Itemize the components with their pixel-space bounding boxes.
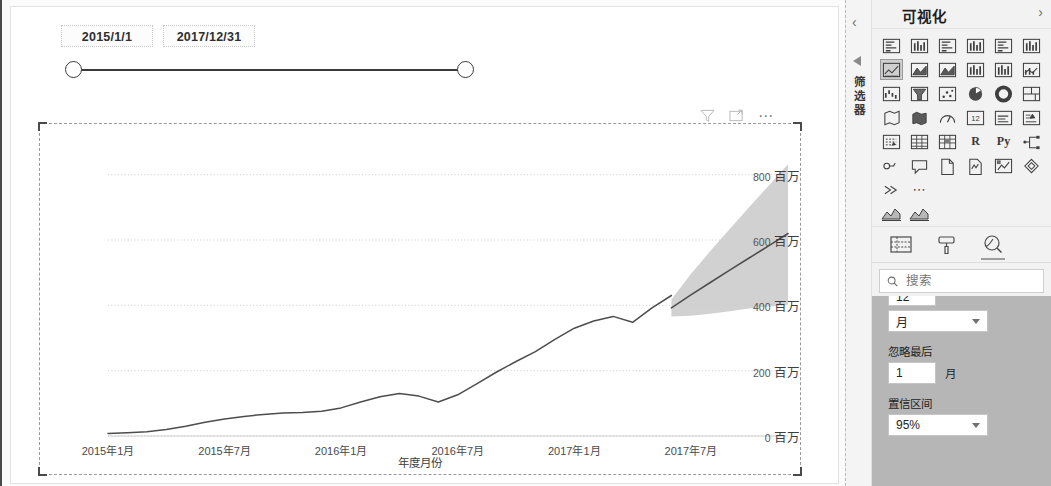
slicer-date-fields: 2015/1/1 2017/12/31 bbox=[61, 25, 255, 47]
decomposition-tree-icon[interactable] bbox=[1020, 131, 1043, 152]
forecast-unit-value: 月 bbox=[896, 313, 908, 330]
svg-text:12: 12 bbox=[971, 114, 979, 123]
r-script-visual-icon[interactable]: R bbox=[964, 131, 987, 152]
y-axis-tick-label: 400 百万 bbox=[738, 296, 800, 315]
y-tick-value: 400 bbox=[753, 301, 771, 313]
confidence-interval-label: 置信区间 bbox=[888, 395, 1035, 411]
clustered-column-chart-icon[interactable] bbox=[964, 35, 987, 56]
ignore-last-row: 1 月 bbox=[888, 362, 1035, 384]
ignore-last-group: 忽略最后 1 月 bbox=[888, 343, 1035, 384]
report-canvas: 2015/1/1 2017/12/31 ⋯ bbox=[0, 0, 845, 486]
more-options-icon[interactable]: ⋯ bbox=[908, 179, 931, 200]
chart-svg bbox=[40, 124, 802, 476]
python-visual-icon[interactable]: Py bbox=[992, 131, 1015, 152]
stacked-bar-chart-icon[interactable] bbox=[880, 35, 903, 56]
matrix-icon[interactable] bbox=[936, 131, 959, 152]
tab-fields[interactable] bbox=[888, 234, 914, 258]
line-and-stacked-column-chart-icon[interactable] bbox=[964, 59, 987, 80]
ignore-last-input[interactable]: 1 bbox=[888, 362, 936, 384]
more-options-icon[interactable]: ⋯ bbox=[758, 112, 775, 120]
line-and-clustered-column-chart-icon[interactable] bbox=[992, 59, 1015, 80]
chevron-down-icon bbox=[972, 319, 980, 324]
more-options-icon-label: ⋯ bbox=[913, 187, 927, 193]
scatter-chart-icon[interactable] bbox=[936, 83, 959, 104]
slicer-track[interactable] bbox=[73, 69, 465, 71]
waterfall-chart-icon[interactable] bbox=[880, 83, 903, 104]
filters-expand-arrow-icon[interactable] bbox=[853, 56, 861, 66]
forecast-settings-panel: 12 月 忽略最后 1 月 置信区间 bbox=[872, 296, 1051, 486]
ignore-last-label: 忽略最后 bbox=[888, 343, 1035, 359]
gauge-icon[interactable] bbox=[936, 107, 959, 128]
hundred-percent-stacked-bar-chart-icon[interactable] bbox=[992, 35, 1015, 56]
report-page: 2015/1/1 2017/12/31 ⋯ bbox=[10, 6, 839, 484]
paginated-report-icon[interactable] bbox=[936, 155, 959, 176]
forecast-unit-dropdown[interactable]: 月 bbox=[888, 310, 988, 332]
paint-roller-icon bbox=[934, 234, 960, 256]
hundred-percent-stacked-column-chart-icon[interactable] bbox=[1020, 35, 1043, 56]
azure-map-mini-icon[interactable] bbox=[880, 204, 902, 222]
custom-visuals-row[interactable] bbox=[872, 202, 1051, 227]
confidence-interval-group: 置信区间 95% bbox=[888, 395, 1035, 436]
table-icon[interactable] bbox=[908, 131, 931, 152]
line-chart-mini-icon[interactable] bbox=[908, 204, 930, 222]
visualizations-expand-icon[interactable]: › bbox=[1038, 4, 1043, 20]
slicer-end-date-field[interactable]: 2017/12/31 bbox=[163, 25, 255, 47]
stacked-area-chart-icon[interactable] bbox=[936, 59, 959, 80]
confidence-interval-dropdown[interactable]: 95% bbox=[888, 414, 988, 436]
analytics-magnifier-icon bbox=[980, 234, 1006, 256]
focus-mode-icon[interactable] bbox=[729, 109, 744, 123]
filled-map-icon[interactable] bbox=[908, 107, 931, 128]
right-pane: ‹ 筛选器 可视化 › 12RPy⋯ bbox=[845, 0, 1051, 486]
chevron-down-icon bbox=[972, 423, 980, 428]
slicer-handle-end[interactable] bbox=[457, 61, 474, 78]
treemap-icon[interactable] bbox=[1020, 83, 1043, 104]
smart-narrative-icon[interactable] bbox=[964, 155, 987, 176]
donut-chart-icon[interactable] bbox=[992, 83, 1015, 104]
pane-tab-strip[interactable] bbox=[872, 227, 1051, 263]
slicer-start-date-field[interactable]: 2015/1/1 bbox=[61, 25, 153, 47]
kpi-icon[interactable]: 12 bbox=[964, 107, 987, 128]
y-tick-unit: 百万 bbox=[771, 169, 800, 183]
area-chart-icon[interactable] bbox=[908, 59, 931, 80]
clustered-bar-chart-icon[interactable] bbox=[936, 35, 959, 56]
line-chart-icon[interactable] bbox=[880, 59, 903, 80]
visualizations-pane: 可视化 › 12RPy⋯ bbox=[872, 0, 1051, 486]
y-tick-value: 200 bbox=[753, 366, 771, 378]
filters-pane-label: 筛选器 bbox=[852, 76, 867, 118]
pie-chart-icon[interactable] bbox=[964, 83, 987, 104]
y-tick-unit: 百万 bbox=[771, 365, 800, 379]
filter-icon[interactable] bbox=[700, 109, 715, 123]
search-input[interactable] bbox=[904, 273, 1036, 289]
python-visual-icon-label: Py bbox=[997, 134, 1010, 149]
forecast-length-field[interactable]: 12 bbox=[888, 296, 936, 306]
y-axis-tick-label: 800 百万 bbox=[738, 165, 800, 184]
search-box[interactable] bbox=[879, 269, 1044, 293]
fields-table-icon bbox=[888, 234, 914, 256]
chart-plot-area bbox=[40, 124, 802, 476]
filters-collapse-icon[interactable]: ‹ bbox=[852, 14, 857, 30]
card-icon[interactable] bbox=[992, 107, 1015, 128]
line-chart-visual[interactable]: ⋯ 0 百万200 百万400 百万600 百万800 百万 2015年1月20… bbox=[39, 123, 801, 475]
tab-selected-underline bbox=[981, 258, 1005, 260]
map-icon[interactable] bbox=[880, 107, 903, 128]
key-influencers-icon[interactable] bbox=[880, 155, 903, 176]
get-more-visuals-icon[interactable] bbox=[880, 179, 903, 200]
stacked-column-chart-icon[interactable] bbox=[908, 35, 931, 56]
tab-format[interactable] bbox=[934, 234, 960, 258]
slicer-icon[interactable] bbox=[880, 131, 903, 152]
power-apps-icon[interactable] bbox=[992, 155, 1015, 176]
date-range-slicer[interactable]: 2015/1/1 2017/12/31 bbox=[51, 25, 491, 95]
visual-header-toolbar: ⋯ bbox=[700, 108, 800, 124]
filters-rail[interactable]: ‹ 筛选器 bbox=[846, 0, 872, 486]
slicer-handle-start[interactable] bbox=[65, 61, 82, 78]
power-automate-icon[interactable] bbox=[1020, 155, 1043, 176]
q-and-a-icon[interactable] bbox=[908, 155, 931, 176]
ribbon-chart-icon[interactable] bbox=[1020, 59, 1043, 80]
visualization-type-gallery[interactable]: 12RPy⋯ bbox=[872, 29, 1051, 202]
visualizations-pane-header: 可视化 › bbox=[872, 0, 1051, 29]
multi-row-card-icon[interactable] bbox=[1020, 107, 1043, 128]
y-axis-tick-label: 600 百万 bbox=[738, 231, 800, 250]
tab-analytics[interactable] bbox=[980, 234, 1006, 258]
funnel-chart-icon[interactable] bbox=[908, 83, 931, 104]
visualizations-pane-title: 可视化 bbox=[902, 5, 947, 26]
